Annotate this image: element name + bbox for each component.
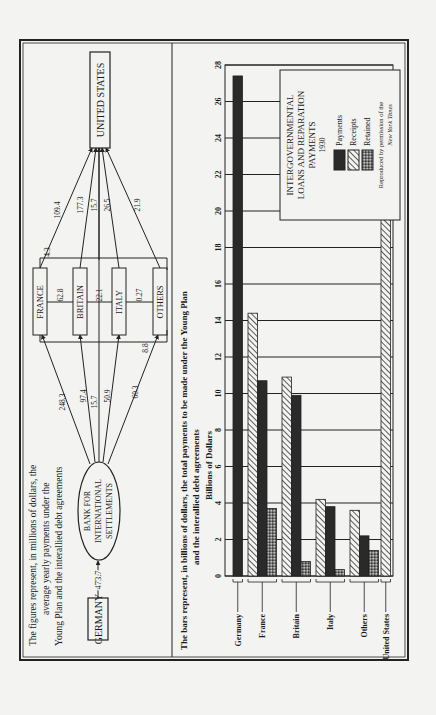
- tick-label: 28: [214, 61, 223, 69]
- chart-legend: INTERGOVERNMENTAL LOANS AND REPARATION P…: [280, 70, 400, 220]
- flow-britain-us: 177.3: [76, 196, 85, 213]
- svg-text:ITALY: ITALY: [114, 290, 124, 314]
- node-united-states: UNITED STATES: [90, 52, 110, 148]
- tick-label: 26: [214, 98, 223, 106]
- svg-text:Receipts: Receipts: [349, 118, 358, 146]
- tick-label: 8: [214, 428, 223, 432]
- tick-label: 20: [214, 207, 223, 215]
- diagram-caption-2: average yearly payments under the: [41, 483, 51, 615]
- node-britain: BRITAIN: [73, 268, 87, 335]
- category-label: Germany: [234, 614, 243, 646]
- rotated-page: The figures represent, in millions of do…: [0, 0, 436, 715]
- tick-label: 0: [214, 574, 223, 578]
- tick-label: 16: [214, 280, 223, 288]
- bar-united-states-receipts: [381, 189, 391, 576]
- bar-italy-payments: [326, 507, 336, 576]
- diagram-caption-3: Young Plan and the interallied debt agre…: [54, 466, 64, 646]
- svg-text:1930: 1930: [318, 137, 327, 152]
- category-label: Italy: [326, 614, 335, 630]
- tick-label: 18: [214, 244, 223, 252]
- svg-text:FRANCE: FRANCE: [35, 285, 45, 319]
- tick-label: 24: [214, 134, 223, 142]
- flow-france-us: 109.4: [53, 201, 62, 218]
- bar-italy-retained: [335, 570, 345, 576]
- category-label: United States: [382, 614, 391, 660]
- svg-text:GERMANY: GERMANY: [93, 594, 104, 645]
- bar-france-retained: [267, 508, 277, 576]
- bar-germany-payments: [233, 76, 243, 576]
- node-germany: GERMANY: [88, 594, 108, 645]
- tick-label: 12: [214, 353, 223, 361]
- category-label: Others: [360, 614, 369, 638]
- flow-bis-us: 15.7: [90, 395, 99, 408]
- tick-label: 2: [214, 538, 223, 542]
- bar-italy-receipts: [316, 499, 326, 576]
- tick-label: 4: [214, 501, 223, 505]
- diagram-caption-1: The figures represent, in millions of do…: [28, 465, 38, 646]
- svg-text:New York Times: New York Times: [386, 104, 393, 147]
- flow-bis-others: 60.3: [131, 385, 140, 398]
- flow-bis-britain: 97.4: [79, 389, 88, 402]
- bar-others-receipts: [350, 510, 360, 576]
- chart-caption-2: and the interallied debt agreements: [191, 429, 201, 565]
- flow-france-britain: 62.8: [56, 288, 65, 301]
- tick-label: 10: [214, 390, 223, 398]
- svg-text:BANK FOR: BANK FOR: [83, 490, 92, 531]
- category-label: Britain: [292, 613, 301, 638]
- bar-france-receipts: [248, 313, 258, 576]
- flow-bis-france: 248.3: [58, 393, 67, 410]
- bar-britain-receipts: [282, 377, 292, 576]
- svg-text:OTHERS: OTHERS: [155, 285, 165, 318]
- bar-chart: The bars represent, in billions of dolla…: [179, 61, 400, 660]
- tick-label: 14: [214, 317, 223, 325]
- svg-text:PAYMENTS: PAYMENTS: [307, 122, 317, 169]
- axis-label: Billions of Dollars: [204, 430, 214, 500]
- legend-swatch-receipts: [348, 150, 359, 170]
- tick-label: 22: [214, 171, 223, 179]
- svg-text:BRITAIN: BRITAIN: [75, 285, 85, 319]
- flow-bis-italy: 50.9: [103, 389, 112, 402]
- bar-france-payments: [258, 381, 268, 576]
- flow-britain-italy: 22.1: [95, 288, 104, 301]
- svg-text:Reproduced by permission of th: Reproduced by permission of the: [377, 102, 384, 188]
- node-others: OTHERS: [153, 268, 167, 335]
- category-label: France: [258, 614, 267, 638]
- tick-label: 6: [214, 465, 223, 469]
- flow-direct-us: 15.7: [90, 198, 99, 211]
- svg-text:Payments: Payments: [335, 115, 344, 146]
- flow-germany-bis: 473.7: [93, 570, 103, 589]
- bar-britain-payments: [292, 395, 302, 576]
- svg-text:SETTLEMENTS: SETTLEMENTS: [105, 483, 114, 539]
- node-italy: ITALY: [112, 268, 126, 335]
- chart-caption-1: The bars represent, in billions of dolla…: [179, 291, 189, 650]
- bar-others-payments: [360, 536, 370, 576]
- flow-italy-us: 26.5: [103, 198, 112, 211]
- svg-text:INTERGOVERNMENTAL: INTERGOVERNMENTAL: [285, 95, 295, 196]
- legend-swatch-payments: [334, 150, 345, 170]
- legend-swatch-retained: [362, 150, 373, 170]
- flow-others-us: 21.9: [133, 198, 142, 211]
- svg-text:LOANS AND REPARATION: LOANS AND REPARATION: [296, 90, 306, 199]
- node-france: FRANCE: [33, 268, 47, 335]
- bar-britain-retained: [301, 561, 311, 576]
- svg-text:INTERNATIONAL: INTERNATIONAL: [94, 479, 103, 543]
- svg-text:UNITED STATES: UNITED STATES: [95, 63, 106, 137]
- svg-text:Retained: Retained: [363, 118, 372, 146]
- node-bis: BANK FOR INTERNATIONAL SETTLEMENTS: [78, 462, 120, 560]
- flow-diagram: The figures represent, in millions of do…: [28, 52, 167, 646]
- bar-others-retained: [369, 550, 379, 576]
- flow-italy-others: 0.27: [135, 288, 144, 301]
- flow-others-lower: 8.8: [141, 343, 150, 353]
